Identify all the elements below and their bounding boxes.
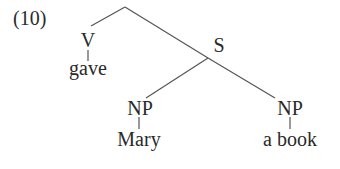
leaf-a-book: a book bbox=[263, 128, 317, 150]
leaf-gave: gave bbox=[69, 57, 107, 80]
edge-root-s bbox=[125, 7, 208, 58]
edge-s-np-right bbox=[208, 58, 275, 98]
example-number: (10) bbox=[13, 7, 46, 30]
leaf-mary: Mary bbox=[117, 128, 160, 151]
node-s: S bbox=[213, 34, 224, 56]
node-np-right: NP bbox=[277, 97, 303, 119]
edge-root-v bbox=[91, 7, 125, 26]
syntax-tree: (10) V S NP NP gave Mary a book bbox=[0, 0, 340, 169]
node-np-left: NP bbox=[127, 97, 153, 119]
node-v: V bbox=[81, 29, 96, 51]
edge-s-np-left bbox=[146, 58, 208, 98]
